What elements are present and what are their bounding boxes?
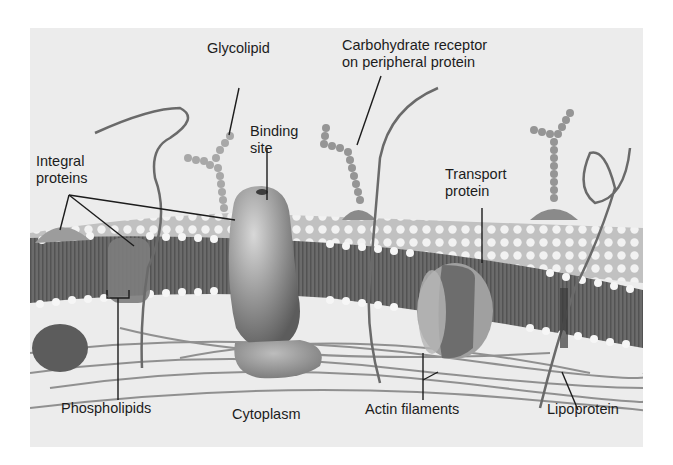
label-cytoplasm: Cytoplasm [232, 406, 301, 423]
label-carbohydrate-receptor-line2: on peripheral protein [342, 54, 475, 71]
label-carbohydrate-receptor-line1: Carbohydrate receptor [342, 37, 487, 54]
peripheral-protein-left [32, 324, 88, 372]
carbohydrate-receptor-chain [320, 124, 376, 220]
label-integral-proteins-line1: Integral [36, 153, 84, 170]
label-glycolipid: Glycolipid [207, 40, 270, 57]
label-transport-protein-line1: Transport [445, 166, 507, 183]
label-integral-proteins-line2: proteins [36, 170, 88, 187]
label-binding-site-line2: site [250, 140, 273, 157]
label-transport-protein-line2: protein [445, 183, 489, 200]
label-actin-filaments: Actin filaments [365, 401, 459, 418]
transport-protein [417, 263, 493, 359]
lipoprotein-band [560, 288, 568, 348]
label-binding-site-line1: Binding [250, 123, 298, 140]
label-phospholipids: Phospholipids [61, 400, 151, 417]
right-glycoprotein-chain [530, 109, 578, 220]
glycolipid-chain [184, 132, 234, 212]
label-lipoprotein: Lipoprotein [547, 401, 619, 418]
membrane-illustration [30, 28, 643, 447]
membrane-diagram: Glycolipid Carbohydrate receptor on peri… [30, 28, 643, 447]
